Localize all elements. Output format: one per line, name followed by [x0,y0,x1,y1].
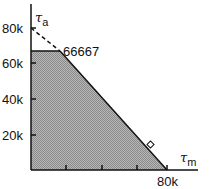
chart: 80k 60k 40k 20k 80k 66667 τa τm [0,0,209,189]
feasible-region [31,51,167,170]
constraint-line-dashed [31,28,60,51]
plateau-value-label: 66667 [63,44,99,59]
y-axis-label: τa [35,10,49,28]
x-axis-label-subscript: m [187,156,196,168]
y-tick-label-40k: 40k [2,92,23,107]
x-tick-label-80k: 80k [157,174,178,189]
y-tick-label-80k: 80k [2,21,23,36]
y-axis-label-subscript: a [42,16,49,28]
y-tick-label-60k: 60k [2,56,23,71]
y-tick-label-20k: 20k [2,128,23,143]
x-axis-label: τm [180,150,196,168]
diamond-marker [147,141,154,148]
